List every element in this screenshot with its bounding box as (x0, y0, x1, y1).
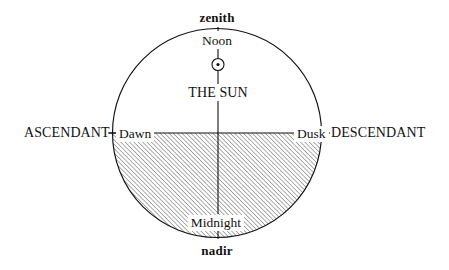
label-dusk: Dusk (294, 126, 329, 142)
label-the-sun: THE SUN (183, 85, 252, 101)
label-nadir: nadir (201, 244, 232, 257)
label-dawn: Dawn (116, 126, 154, 142)
label-zenith: zenith (199, 11, 234, 24)
label-noon: Noon (199, 33, 235, 49)
sun-symbol-icon (212, 59, 224, 71)
label-midnight: Midnight (188, 215, 244, 231)
diagram-stage: zenith Noon THE SUN Midnight nadir ASCEN… (0, 0, 449, 270)
label-descendant: DESCENDANT (331, 126, 425, 140)
label-ascendant: ASCENDANT (24, 126, 110, 140)
